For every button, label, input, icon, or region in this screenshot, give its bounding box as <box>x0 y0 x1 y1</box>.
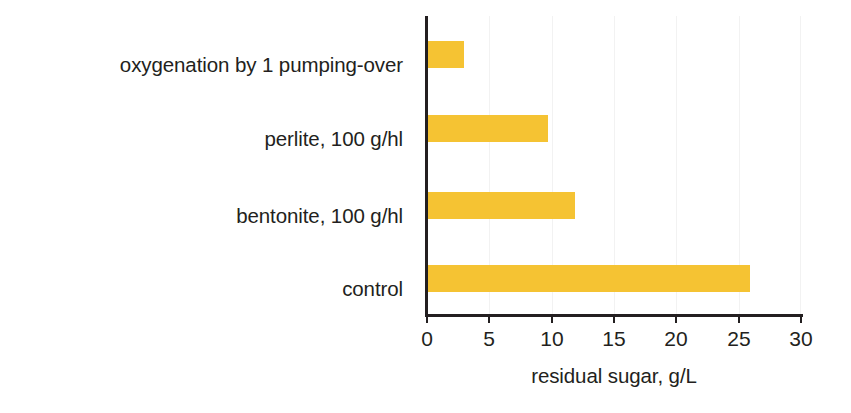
x-axis-title: residual sugar, g/L <box>427 364 801 388</box>
bar-perlite <box>427 115 548 142</box>
category-label-oxygenation: oxygenation by 1 pumping-over <box>3 55 403 76</box>
x-tick-20 <box>675 316 677 323</box>
category-label-perlite: perlite, 100 g/hl <box>3 129 403 150</box>
category-axis-labels: oxygenation by 1 pumping-over perlite, 1… <box>0 16 415 315</box>
y-axis-line <box>425 16 428 315</box>
x-tick-label-30: 30 <box>771 327 831 351</box>
bar-oxygenation <box>427 41 464 68</box>
bar-bentonite <box>427 192 575 219</box>
x-tick-label-20: 20 <box>646 327 706 351</box>
x-tick-label-25: 25 <box>709 327 769 351</box>
x-tick-15 <box>613 316 615 323</box>
category-label-bentonite: bentonite, 100 g/hl <box>3 206 403 227</box>
x-tick-label-0: 0 <box>397 327 457 351</box>
gridline-30 <box>800 16 801 315</box>
bar-chart: oxygenation by 1 pumping-over perlite, 1… <box>0 0 851 413</box>
bar-control <box>427 265 750 292</box>
x-tick-30 <box>800 316 802 323</box>
plot-area <box>427 16 801 315</box>
category-label-control: control <box>3 279 403 300</box>
x-tick-0 <box>426 316 428 323</box>
x-tick-label-15: 15 <box>584 327 644 351</box>
x-tick-10 <box>551 316 553 323</box>
x-tick-25 <box>738 316 740 323</box>
x-tick-label-5: 5 <box>459 327 519 351</box>
x-tick-5 <box>488 316 490 323</box>
x-tick-label-10: 10 <box>522 327 582 351</box>
